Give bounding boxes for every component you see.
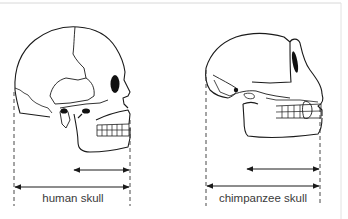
chimp-orbit [291,51,300,74]
measurement-guides [14,70,320,206]
human-ear-canal [61,108,68,113]
chimpanzee-skull-drawing [206,34,323,138]
chimp-ear-canal [234,88,238,92]
human-joint [82,108,90,113]
figure-canvas [0,0,348,219]
human-skull-label: human skull [42,192,103,204]
human-orbit [111,75,120,93]
skull-comparison-figure: human skull chimpanzee skull [0,0,348,219]
chimpanzee-skull-label: chimpanzee skull [219,192,307,204]
